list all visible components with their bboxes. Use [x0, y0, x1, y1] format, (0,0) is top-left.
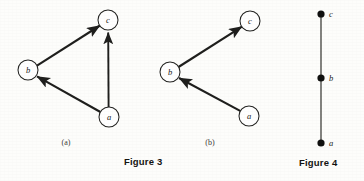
- panel-a-label: (a): [62, 138, 71, 147]
- edge-b-to-c-panel-b: [179, 27, 243, 67]
- figure-4-caption: Figure 4: [299, 157, 338, 168]
- node-a-panel-a[interactable]: a: [99, 107, 119, 127]
- node-c-panel-b-label: c: [248, 16, 252, 26]
- node-b-panel-b[interactable]: b: [160, 62, 180, 82]
- edge-a-to-b-panel-a: [37, 76, 100, 112]
- figure-page: c b a (a) c: [0, 0, 364, 181]
- edge-b-to-c-panel-a: [37, 26, 100, 66]
- node-b-panel-a-label: b: [26, 65, 30, 75]
- point-b-figure-4[interactable]: b: [317, 73, 333, 83]
- point-a-figure-4[interactable]: a: [317, 138, 333, 148]
- node-b-panel-b-label: b: [168, 67, 172, 77]
- point-c-figure-4-label: c: [329, 9, 333, 19]
- node-a-panel-b-label: a: [247, 111, 251, 121]
- figure-4-group: c b a: [317, 9, 333, 148]
- panel-b-group: c b a (b): [160, 11, 260, 147]
- point-a-figure-4-label: a: [329, 138, 333, 148]
- diagram-canvas: c b a (a) c: [0, 0, 364, 181]
- figure-3-caption: Figure 3: [124, 156, 163, 167]
- node-b-panel-a[interactable]: b: [18, 60, 38, 80]
- point-b-figure-4-label: b: [329, 73, 333, 83]
- panel-a-group: c b a (a): [18, 10, 119, 147]
- node-a-panel-a-label: a: [107, 112, 111, 122]
- edge-a-to-b-panel-b: [179, 78, 241, 111]
- point-c-figure-4[interactable]: c: [317, 9, 333, 19]
- node-c-panel-a-label: c: [106, 15, 110, 25]
- node-c-panel-a[interactable]: c: [98, 10, 118, 30]
- node-a-panel-b[interactable]: a: [239, 106, 259, 126]
- node-c-panel-b[interactable]: c: [240, 11, 260, 31]
- panel-b-label: (b): [205, 138, 215, 147]
